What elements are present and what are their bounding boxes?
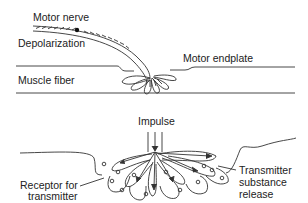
motor-endplate-fan [122, 75, 176, 94]
receptor-label-line2: transmitter [28, 191, 78, 202]
muscle-fiber-top-membrane [16, 66, 134, 71]
transmitter-label-line1: Transmitter [239, 165, 292, 176]
impulse-label: Impulse [138, 116, 175, 127]
muscle-surface-left [20, 152, 102, 175]
receptor-leader-line [80, 178, 104, 186]
motor-endplate-label: Motor endplate [183, 53, 253, 64]
muscle-fiber-top-membrane-right [170, 67, 295, 70]
depolarization-label: Depolarization [18, 38, 85, 49]
transmitter-label-line3: release [239, 189, 273, 200]
transmitter-label-line2: substance [239, 177, 287, 188]
muscle-fiber-label: Muscle fiber [18, 75, 75, 86]
motor-nerve-label: Motor nerve [33, 12, 89, 23]
endplate-folds [108, 151, 228, 200]
impulse-arrows [148, 132, 162, 152]
depolarization-dot [75, 28, 79, 32]
motor-nerve-axon [33, 26, 150, 78]
vesicles [102, 162, 224, 196]
